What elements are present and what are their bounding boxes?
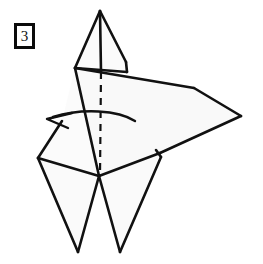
top-center-crease (100, 11, 101, 72)
upper-right-short-edge (126, 62, 127, 72)
step-number-badge: 3 (14, 23, 35, 49)
paper-panels (38, 11, 241, 252)
step-number-label: 3 (21, 28, 29, 43)
right-wing (75, 68, 241, 176)
origami-diagram-figure: 3 (0, 0, 263, 264)
origami-illustration (0, 0, 263, 264)
